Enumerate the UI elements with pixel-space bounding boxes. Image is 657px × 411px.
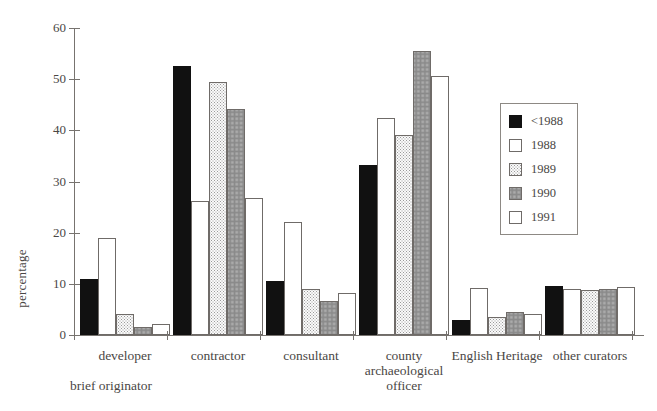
- y-tick-mark: [69, 233, 80, 234]
- legend-label: 1988: [531, 139, 556, 152]
- x-axis-separator-tick: [446, 331, 447, 340]
- bar: [413, 51, 431, 335]
- bar: [98, 238, 116, 335]
- legend-item: <1988: [509, 113, 563, 129]
- legend-swatch-icon: [509, 139, 522, 152]
- bar: [488, 317, 506, 335]
- legend-item: 1988: [509, 137, 556, 153]
- x-axis-separator-tick: [353, 331, 354, 340]
- bar: [302, 289, 320, 335]
- bar: [209, 82, 227, 335]
- bar: [452, 320, 470, 335]
- y-tick-label: 50: [40, 72, 66, 85]
- y-tick-label: 40: [40, 123, 66, 136]
- bar: [191, 201, 209, 335]
- y-tick-label: 10: [40, 277, 66, 290]
- bar: [377, 118, 395, 335]
- legend-label: <1988: [531, 115, 563, 128]
- x-axis-category-label-line: archaeological: [349, 363, 459, 378]
- bar: [545, 286, 563, 335]
- bar: [116, 314, 134, 335]
- bar-chart: 0102030405060 percentage developercontra…: [0, 0, 657, 411]
- bar: [173, 66, 191, 335]
- legend-item: 1990: [509, 185, 556, 201]
- legend-label: 1989: [531, 163, 556, 176]
- x-axis-separator-tick: [539, 331, 540, 340]
- x-axis-separator-tick: [167, 331, 168, 340]
- bar: [134, 327, 152, 335]
- legend-swatch-icon: [509, 115, 522, 128]
- bar: [506, 312, 524, 335]
- y-tick-label: 20: [40, 226, 66, 239]
- y-axis-title: percentage: [15, 239, 28, 319]
- bar: [266, 281, 284, 335]
- legend-swatch-icon: [509, 187, 522, 200]
- bar: [320, 301, 338, 335]
- x-axis-separator-tick: [74, 331, 75, 340]
- bar: [563, 289, 581, 335]
- x-axis-category-label-line: other curators: [535, 348, 645, 363]
- bar: [617, 287, 635, 335]
- bar: [581, 290, 599, 335]
- bar: [359, 165, 377, 335]
- y-tick-mark: [69, 182, 80, 183]
- x-axis-category-label: other curators: [535, 348, 645, 363]
- x-axis-separator-tick: [632, 331, 633, 340]
- bar: [338, 293, 356, 335]
- y-tick-mark: [69, 130, 80, 131]
- legend-swatch-icon: [509, 211, 522, 224]
- bar: [284, 222, 302, 335]
- legend-item: 1991: [509, 209, 556, 225]
- legend: <19881988198919901991: [500, 103, 578, 235]
- legend-label: 1991: [531, 211, 556, 224]
- legend-label: 1990: [531, 187, 556, 200]
- y-tick-label: 30: [40, 175, 66, 188]
- y-tick-mark: [69, 79, 80, 80]
- bar: [599, 289, 617, 335]
- y-tick-label: 60: [40, 21, 66, 34]
- bar: [245, 198, 263, 335]
- x-axis-separator-tick: [260, 331, 261, 340]
- x-axis-title: brief originator: [70, 378, 152, 393]
- x-axis-category-label-line: officer: [349, 378, 459, 393]
- bar: [227, 109, 245, 335]
- bar: [80, 279, 98, 335]
- legend-item: 1989: [509, 161, 556, 177]
- legend-swatch-icon: [509, 163, 522, 176]
- y-tick-mark: [69, 284, 80, 285]
- bar: [395, 135, 413, 335]
- x-axis-line: [74, 335, 644, 336]
- bar: [470, 288, 488, 335]
- bar: [431, 76, 449, 335]
- y-tick-mark: [69, 28, 80, 29]
- y-tick-label: 0: [40, 328, 66, 341]
